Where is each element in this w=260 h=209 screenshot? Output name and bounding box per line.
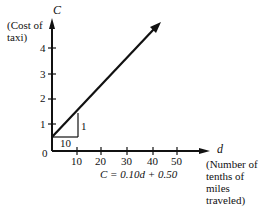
x-axis-desc-2: tenths of xyxy=(206,170,244,182)
x-axis-label: d xyxy=(217,143,223,155)
x-axis-desc-4: traveled) xyxy=(206,194,245,206)
equation: C = 0.10d + 0.50 xyxy=(100,168,177,180)
y-axis-desc-1: (Cost of xyxy=(7,19,43,31)
x-axis-arrow-icon xyxy=(199,148,210,154)
y-axis-desc-2: taxi) xyxy=(7,31,27,43)
y-tick-2: 2 xyxy=(40,93,46,104)
x-tick-40: 40 xyxy=(147,156,158,167)
y-axis-arrow-icon xyxy=(49,18,55,29)
y-tick-3: 3 xyxy=(40,69,46,80)
rise-label: 1 xyxy=(81,121,87,132)
origin-label: 0 xyxy=(42,148,48,159)
y-tick-4: 4 xyxy=(40,43,46,54)
x-axis-desc-1: (Number of xyxy=(206,158,258,170)
data-line xyxy=(52,29,154,137)
x-tick-50: 50 xyxy=(171,156,182,167)
y-axis-label: C xyxy=(53,4,61,16)
y-tick-1: 1 xyxy=(40,119,46,130)
x-axis-desc-3: miles xyxy=(206,182,230,194)
x-tick-30: 30 xyxy=(121,156,132,167)
x-tick-10: 10 xyxy=(71,156,82,167)
x-tick-20: 20 xyxy=(95,156,106,167)
run-label: 10 xyxy=(60,138,71,149)
